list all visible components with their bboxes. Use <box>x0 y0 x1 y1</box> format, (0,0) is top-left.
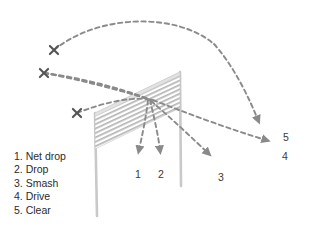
net <box>95 72 180 149</box>
shot-label-clear: 5 <box>283 131 289 143</box>
badminton-shot-diagram: 12345 1. Net drop 2. Drop 3. Smash 4. Dr… <box>0 0 311 231</box>
trajectory-descent-drive <box>153 100 266 140</box>
shot-label-smash: 3 <box>218 171 224 183</box>
shot-label-net-drop: 1 <box>135 168 141 180</box>
trajectory-approach-drive <box>44 73 152 100</box>
legend-item: 1. Net drop <box>14 150 106 163</box>
trajectory-descent-clear <box>214 44 258 120</box>
approach-trajectories <box>44 21 214 113</box>
trajectory-approach-clear <box>54 21 214 50</box>
legend-item: 2. Drop <box>14 163 106 176</box>
legend-item: 4. Drive <box>14 190 106 203</box>
legend-item: 5. Clear <box>14 204 106 217</box>
shot-label-drive: 4 <box>282 150 288 162</box>
contact-marks <box>40 46 81 117</box>
legend-item: 3. Smash <box>14 177 106 190</box>
legend: 1. Net drop 2. Drop 3. Smash 4. Drive 5.… <box>14 150 106 217</box>
shot-label-drop: 2 <box>158 168 164 180</box>
